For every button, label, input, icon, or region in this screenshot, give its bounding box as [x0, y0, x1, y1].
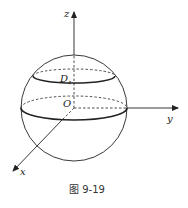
equator-front	[21, 108, 127, 120]
origin-label: O	[63, 98, 71, 109]
x-axis	[13, 120, 62, 171]
sphere-diagram: z y x O Dz 图 9-19	[0, 0, 188, 208]
y-axis-label: y	[166, 113, 173, 124]
x-axis-inner	[62, 108, 74, 120]
x-axis-label: x	[20, 166, 26, 177]
region-label: Dz	[59, 73, 72, 85]
z-axis-label: z	[63, 8, 70, 19]
region-label-main: D	[59, 73, 68, 84]
figure-caption: 图 9-19	[69, 184, 105, 195]
region-label-sub: z	[67, 78, 72, 85]
